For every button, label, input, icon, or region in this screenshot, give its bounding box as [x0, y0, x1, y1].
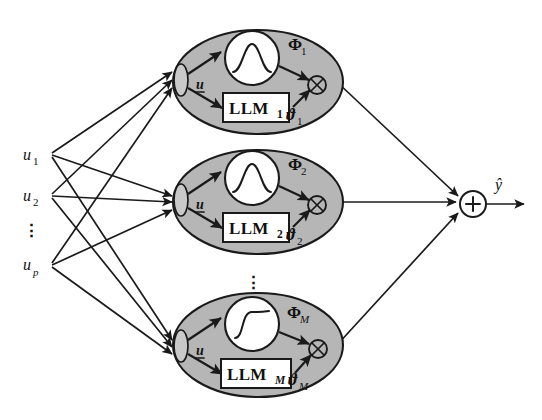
module-2[interactable]: LLM 2 u Φ 2 ϑ 2 — [173, 150, 343, 254]
module-1-validity-label: Φ — [288, 35, 302, 54]
input-up-label: u — [23, 256, 31, 273]
module-1-llm-sub: 1 — [277, 108, 283, 120]
module-1-activation-circle — [225, 31, 279, 85]
edge-u2-moduleM — [52, 198, 172, 347]
input-u1-sub: 1 — [33, 155, 39, 167]
module-M-activation-circle — [225, 297, 279, 351]
module-ellipsis: ⋮ — [245, 273, 262, 292]
module-M-llm-sub: M — [274, 374, 286, 386]
module-2-bus-label: u — [196, 197, 204, 212]
module-M-validity-sub: M — [299, 313, 310, 325]
diagram-canvas: LLM 1 u Φ 1 ϑ 1 LLM 2 u Φ — [0, 0, 542, 420]
module-2-activation-circle — [225, 151, 279, 205]
input-fanout-edges — [52, 72, 172, 354]
input-ellipsis: ⋮ — [23, 221, 40, 240]
module-M-validity-label: Φ — [287, 303, 301, 322]
edge-moduleM-sum — [337, 213, 458, 345]
module-1-parameter-label: ϑ — [286, 105, 296, 124]
module-2-llm-label: LLM — [229, 219, 269, 238]
input-u2-label: u — [23, 187, 31, 204]
edge-module1-sum — [337, 82, 458, 196]
input-u2-sub: 2 — [33, 196, 39, 208]
edge-u1-moduleM — [52, 157, 172, 340]
edge-u2-module2 — [52, 196, 172, 202]
module-M-bus-label: u — [196, 343, 204, 358]
llm-network-diagram: LLM 1 u Φ 1 ϑ 1 LLM 2 u Φ — [0, 0, 542, 420]
module-output-edges — [337, 82, 458, 345]
input-up-sub: p — [32, 266, 39, 278]
input-u1-label: u — [23, 146, 31, 163]
module-1-llm-label: LLM — [229, 99, 269, 118]
module-M-parameter-label: ϑ — [288, 370, 298, 389]
output-stage: ŷ — [460, 176, 524, 217]
edge-up-moduleM — [52, 267, 172, 354]
module-M-parameter-sub: M — [298, 380, 309, 392]
module-1[interactable]: LLM 1 u Φ 1 ϑ 1 — [173, 30, 343, 134]
input-labels: u 1 u 2 ⋮ u p — [23, 146, 40, 278]
module-2-llm-sub: 2 — [277, 228, 283, 240]
module-2-input-bus — [174, 184, 188, 216]
module-2-validity-sub: 2 — [301, 165, 307, 177]
output-label: ŷ — [493, 176, 503, 194]
module-1-input-bus — [174, 64, 188, 96]
module-1-bus-label: u — [196, 77, 204, 92]
edge-u1-module1 — [52, 72, 172, 153]
module-2-parameter-label: ϑ — [286, 225, 296, 244]
module-2-validity-label: Φ — [288, 155, 302, 174]
module-M-input-bus — [174, 330, 188, 362]
module-M[interactable]: LLM M u Φ M ϑ M — [173, 293, 343, 397]
module-1-parameter-sub: 1 — [297, 115, 303, 127]
module-1-validity-sub: 1 — [301, 45, 307, 57]
module-2-parameter-sub: 2 — [297, 235, 303, 247]
module-M-llm-label: LLM — [227, 365, 267, 384]
